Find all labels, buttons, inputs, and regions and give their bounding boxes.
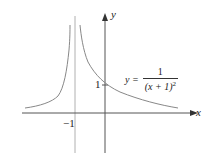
- function-equation: y = 1 (x + 1)2: [125, 66, 178, 92]
- equation-denominator: (x + 1)2: [143, 78, 178, 92]
- y-axis-label: y: [111, 9, 116, 20]
- x-axis-label: x: [196, 107, 201, 118]
- equation-fraction: 1 (x + 1)2: [143, 66, 178, 92]
- equation-denominator-base: (x + 1): [145, 81, 173, 92]
- equation-numerator: 1: [156, 66, 165, 78]
- y-axis-arrow-icon: [102, 13, 108, 21]
- equation-lhs: y =: [125, 74, 139, 85]
- y-tick-label-1: 1: [95, 79, 101, 90]
- function-graph: [0, 0, 218, 153]
- x-tick-label-neg1: −1: [63, 118, 75, 129]
- equation-exponent: 2: [173, 80, 177, 88]
- curve-left-branch: [25, 25, 70, 108]
